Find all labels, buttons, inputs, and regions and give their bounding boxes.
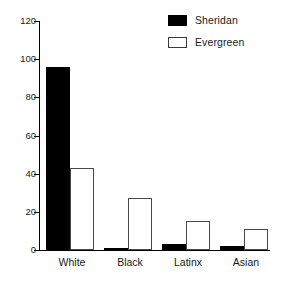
x-axis-line <box>39 250 270 251</box>
bar-evergreen-asian <box>244 229 268 250</box>
x-label-latinx: Latinx <box>156 256 220 269</box>
plot-area: 120 100 80 60 40 20 0 <box>40 21 270 250</box>
bar-evergreen-latinx <box>186 221 210 250</box>
y-tick-label-60: 60 <box>2 130 36 141</box>
x-label-white: White <box>40 256 104 269</box>
bar-chart: Sheridan Evergreen 120 100 80 60 40 <box>0 0 282 288</box>
bar-group-black <box>104 21 156 250</box>
bar-evergreen-white <box>70 168 94 250</box>
x-label-black: Black <box>98 256 162 269</box>
y-tick-label-80: 80 <box>2 91 36 102</box>
y-tick-label-0: 0 <box>2 244 36 255</box>
x-axis-labels: White Black Latinx Asian <box>40 256 270 272</box>
bar-evergreen-black <box>128 198 152 250</box>
bar-group-latinx <box>162 21 214 250</box>
y-tick-label-20: 20 <box>2 206 36 217</box>
bar-group-white <box>46 21 98 250</box>
y-tick-label-100: 100 <box>2 53 36 64</box>
y-tick-label-120: 120 <box>2 15 36 26</box>
bar-sheridan-white <box>46 67 70 250</box>
bar-sheridan-asian <box>220 246 244 250</box>
x-label-asian: Asian <box>214 256 278 269</box>
y-tick-label-40: 40 <box>2 168 36 179</box>
bar-sheridan-black <box>104 248 128 250</box>
bar-sheridan-latinx <box>162 244 186 250</box>
bar-group-asian <box>220 21 272 250</box>
